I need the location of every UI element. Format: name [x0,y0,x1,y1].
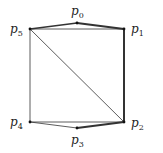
label-subscript-p2: 2 [139,123,144,132]
vertex-p2 [123,121,126,124]
label-p3: p3 [71,133,84,149]
triangulation-diagram: p0p1p2p3p4p5 [0,0,163,153]
label-subscript-p0: 0 [79,11,84,20]
label-p2: p2 [131,116,144,132]
vertex-p4 [29,121,32,124]
edge-p3-p4 [30,122,77,128]
label-p1: p1 [131,22,144,38]
edge-p5-p2 [30,29,124,122]
label-subscript-p4: 4 [18,122,23,131]
vertex-p0 [76,22,79,25]
label-subscript-p5: 5 [18,29,23,38]
vertex-p3 [76,127,79,130]
label-subscript-p3: 3 [79,140,84,149]
vertex-p1 [123,28,126,31]
label-subscript-p1: 1 [139,29,144,38]
vertex-p5 [29,28,32,31]
edge-p2-p3 [77,122,124,128]
edge-p0-p1 [77,23,124,29]
edge-p5-p0 [30,23,77,29]
label-p5: p5 [10,22,23,38]
label-p4: p4 [10,115,23,131]
edges-group [30,23,124,128]
label-p0: p0 [71,4,84,20]
